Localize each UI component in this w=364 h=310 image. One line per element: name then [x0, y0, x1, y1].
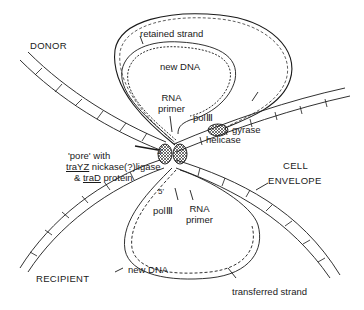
recipient-label: RECIPIENT: [36, 273, 89, 284]
donor-envelope-left: [20, 52, 166, 150]
transferred-strand-label: transferred strand: [232, 286, 307, 297]
five-prime-end: 5': [158, 186, 164, 197]
pol3-bottom-label: polⅢ: [153, 205, 173, 216]
trayz-gene: traYZ: [66, 161, 89, 172]
rna-primer-top-label: RNA primer: [158, 92, 185, 114]
three-prime-end: 3': [157, 146, 163, 157]
retained-strand-label: retained strand: [140, 28, 203, 39]
donor-label: DONOR: [30, 40, 67, 51]
pol3-top-label: polⅢ: [193, 112, 213, 123]
helicase-label: helicase: [206, 134, 241, 145]
trad-gene: traD: [83, 172, 101, 183]
cell-label: CELL: [283, 160, 308, 171]
new-dna-bottom-label: new DNA: [128, 264, 168, 275]
new-dna-top-label: new DNA: [160, 61, 200, 72]
envelope-label: ENVELOPE: [268, 175, 322, 186]
conjugation-diagram: DONOR retained strand new DNA RNA primer…: [0, 0, 364, 310]
rna-primer-bottom-label: RNA primer: [186, 203, 213, 225]
pore-label: 'pore' with traYZ nickase(?)ligase & tra…: [66, 150, 161, 183]
